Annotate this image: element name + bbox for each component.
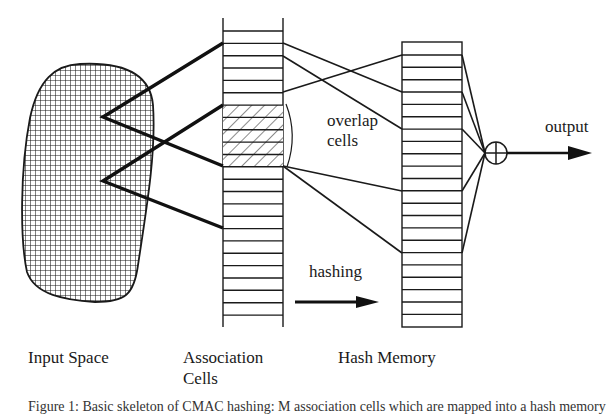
circled-plus-icon [485, 142, 507, 164]
association-cells-label: Association [183, 348, 263, 368]
output-label: output [545, 117, 588, 137]
hash-memory-label: Hash Memory [338, 348, 436, 368]
overlap-bracket [286, 104, 292, 167]
figure-caption: Figure 1: Basic skeleton of CMAC hashing… [28, 399, 606, 415]
output-links [462, 55, 485, 253]
input-space-label: Input Space [28, 348, 109, 368]
hash-memory-column [402, 42, 462, 327]
association-cells-column [223, 18, 283, 327]
overlap-label-line2: cells [327, 131, 358, 151]
overlap-cells-hatch [223, 105, 283, 166]
output-arrow-icon [507, 146, 592, 160]
hashing-arrow-icon [295, 296, 379, 308]
association-cells-label-line2: Cells [183, 369, 218, 389]
hashing-label: hashing [309, 262, 362, 282]
overlap-label: overlap [327, 111, 378, 131]
